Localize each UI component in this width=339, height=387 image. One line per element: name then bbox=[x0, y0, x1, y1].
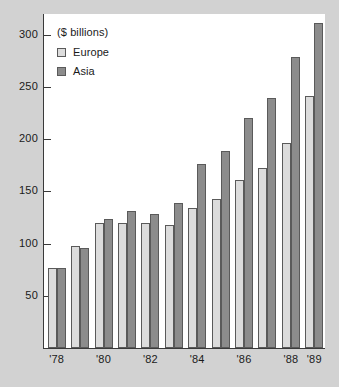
bar-europe bbox=[258, 168, 267, 348]
y-axis-tick-label: 150 bbox=[19, 185, 38, 196]
x-axis-tick-label: '84 bbox=[182, 354, 212, 365]
bar-europe bbox=[141, 223, 150, 348]
bar-europe bbox=[48, 268, 57, 348]
bar-asia bbox=[80, 248, 89, 348]
bar-asia bbox=[150, 214, 159, 348]
bar-europe bbox=[235, 180, 244, 348]
bar-asia bbox=[291, 57, 300, 348]
legend-item-asia: Asia bbox=[57, 66, 109, 77]
bar-asia bbox=[127, 211, 136, 348]
bar-chart-figure: 50100150200250300 '78'80'82'84'86'88'89 … bbox=[0, 0, 339, 387]
legend-swatch-europe-icon bbox=[57, 48, 66, 57]
bar-europe bbox=[188, 208, 197, 348]
legend-item-europe: Europe bbox=[57, 47, 109, 58]
bar-asia bbox=[221, 151, 230, 348]
bar-europe bbox=[212, 199, 221, 348]
x-axis-tick-label: '78 bbox=[42, 354, 72, 365]
legend-label-europe: Europe bbox=[73, 47, 109, 58]
bar-asia bbox=[104, 219, 113, 348]
y-axis-tick-label: 200 bbox=[19, 133, 38, 144]
y-axis-tick-label: 100 bbox=[19, 238, 38, 249]
x-axis-tick-label: '80 bbox=[89, 354, 119, 365]
bar-group bbox=[165, 14, 183, 348]
bar-asia bbox=[244, 118, 253, 348]
bar-group bbox=[258, 14, 276, 348]
chart-legend: ($ billions) Europe Asia bbox=[57, 27, 109, 85]
bar-group bbox=[141, 14, 159, 348]
legend-swatch-asia-icon bbox=[57, 67, 66, 76]
x-axis-tick-label: '89 bbox=[299, 354, 329, 365]
bar-group bbox=[188, 14, 206, 348]
bar-asia bbox=[314, 23, 323, 348]
x-axis-tick-label: '86 bbox=[229, 354, 259, 365]
bar-europe bbox=[282, 143, 291, 348]
bar-asia bbox=[57, 268, 66, 348]
bar-europe bbox=[118, 223, 127, 348]
bar-asia bbox=[174, 203, 183, 348]
bar-group bbox=[235, 14, 253, 348]
x-axis-tick-label: '82 bbox=[135, 354, 165, 365]
bar-group bbox=[305, 14, 323, 348]
legend-label-asia: Asia bbox=[73, 66, 95, 77]
bar-europe bbox=[305, 96, 314, 348]
bar-asia bbox=[197, 164, 206, 348]
y-axis-tick-label: 300 bbox=[19, 29, 38, 40]
bar-europe bbox=[71, 246, 80, 348]
bar-asia bbox=[267, 98, 276, 349]
bar-group bbox=[118, 14, 136, 348]
bar-europe bbox=[165, 225, 174, 348]
bar-group bbox=[282, 14, 300, 348]
y-axis-tick-label: 50 bbox=[25, 290, 38, 301]
legend-title: ($ billions) bbox=[57, 27, 109, 38]
x-axis-line bbox=[43, 348, 325, 349]
bar-europe bbox=[95, 223, 104, 348]
bar-group bbox=[212, 14, 230, 348]
y-axis-tick-label: 250 bbox=[19, 81, 38, 92]
